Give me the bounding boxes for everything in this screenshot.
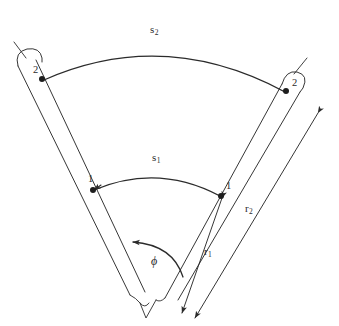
node-dot-right-outer [283, 88, 289, 94]
label-node-left-inner: 1 [88, 174, 93, 185]
label-radius-outer-r2: r2 [245, 203, 253, 215]
label-node-right-inner: 1 [226, 181, 231, 192]
left-arm-outer-edge [18, 66, 130, 295]
node-dot-right-inner [218, 193, 224, 199]
right-apex-chevron [156, 298, 165, 301]
outer-arc-s2 [44, 56, 285, 92]
node-dot-left-outer [39, 76, 45, 82]
label-arc-inner-s1: s1 [152, 152, 160, 164]
label-arc-outer-s2: s2 [150, 24, 158, 36]
sector-diagram-svg [0, 0, 339, 326]
right-arm-tick [294, 58, 307, 74]
angle-arc-phi [133, 242, 183, 277]
left-apex-chevron [130, 295, 149, 306]
inner-arc-s1 [94, 178, 220, 196]
label-node-right-outer: 2 [292, 78, 297, 89]
label-node-left-outer: 2 [33, 65, 38, 76]
label-angle-phi: ϕ [151, 255, 157, 267]
apex-vee [140, 300, 156, 318]
node-dot-left-inner [90, 187, 96, 193]
right-arm-outer-edge [178, 92, 300, 300]
r2-dimension-line [195, 113, 318, 318]
figure-container: s2 s1 r1 r2 ϕ 2 2 1 1 [0, 0, 339, 326]
right-arm-inner-edge [165, 84, 282, 298]
label-radius-inner-r1: r1 [204, 246, 212, 258]
